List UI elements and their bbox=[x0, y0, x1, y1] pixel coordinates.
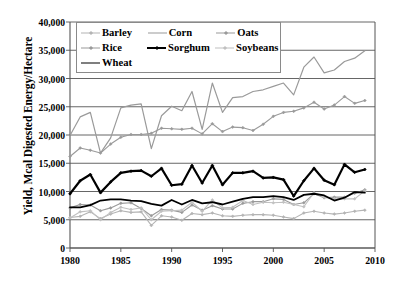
series-marker-barley bbox=[262, 213, 265, 216]
legend-label: Soybeans bbox=[236, 42, 278, 54]
legend-label: Barley bbox=[102, 27, 132, 39]
series-line-wheat bbox=[70, 192, 365, 207]
series-marker-barley bbox=[231, 215, 234, 218]
legend-label: Corn bbox=[169, 27, 193, 39]
series-marker-barley bbox=[252, 213, 255, 216]
series-marker-barley bbox=[170, 215, 173, 218]
legend-item-corn: Corn bbox=[148, 27, 217, 39]
series-marker-rice bbox=[140, 133, 143, 136]
legend-label: Sorghum bbox=[168, 42, 210, 54]
legend-swatch-corn-icon bbox=[148, 27, 167, 39]
series-marker-rice bbox=[292, 110, 295, 113]
legend-item-barley: Barley bbox=[81, 27, 148, 39]
series-marker-rice bbox=[363, 99, 366, 102]
series-line-barley bbox=[70, 210, 365, 225]
legend-row: RiceSorghumSoybeans bbox=[81, 40, 277, 55]
series-marker-barley bbox=[323, 211, 326, 214]
series-marker-rice bbox=[180, 128, 183, 131]
legend-item-rice: Rice bbox=[81, 42, 147, 54]
legend-row: Wheat bbox=[81, 55, 277, 70]
legend-item-soybeans: Soybeans bbox=[215, 42, 277, 54]
chart-legend: BarleyCornOatsRiceSorghumSoybeansWheat bbox=[76, 22, 281, 73]
series-marker-barley bbox=[201, 213, 204, 216]
chart-figure: Yield, Mcal Digested Energy/Hectare 05,0… bbox=[0, 0, 400, 289]
legend-swatch-rice-icon bbox=[81, 42, 100, 54]
legend-line-icon bbox=[81, 62, 100, 63]
legend-marker-icon bbox=[224, 30, 228, 34]
legend-swatch-barley-icon bbox=[81, 27, 100, 39]
legend-label: Wheat bbox=[102, 57, 132, 69]
series-marker-rice bbox=[282, 111, 285, 114]
legend-swatch-oats-icon bbox=[216, 27, 235, 39]
series-marker-barley bbox=[333, 213, 336, 216]
series-marker-barley bbox=[343, 211, 346, 214]
series-marker-rice bbox=[170, 127, 173, 130]
series-marker-barley bbox=[353, 210, 356, 213]
legend-swatch-soybeans-icon bbox=[215, 42, 234, 54]
series-marker-oats bbox=[272, 197, 275, 200]
series-marker-barley bbox=[221, 214, 224, 217]
series-marker-barley bbox=[313, 210, 316, 213]
legend-item-sorghum: Sorghum bbox=[147, 42, 215, 54]
series-marker-barley bbox=[363, 209, 366, 212]
legend-line-icon bbox=[148, 32, 167, 33]
legend-marker-icon bbox=[222, 45, 226, 49]
series-marker-soybeans bbox=[282, 201, 285, 204]
series-marker-barley bbox=[241, 214, 244, 217]
legend-marker-icon bbox=[88, 30, 92, 34]
legend-marker-icon bbox=[154, 45, 158, 49]
series-marker-soybeans bbox=[272, 201, 275, 204]
legend-item-oats: Oats bbox=[216, 27, 277, 39]
series-marker-rice bbox=[89, 149, 92, 152]
series-marker-rice bbox=[130, 133, 133, 136]
series-marker-barley bbox=[211, 211, 214, 214]
series-marker-rice bbox=[241, 126, 244, 129]
legend-item-wheat: Wheat bbox=[81, 57, 149, 69]
series-marker-soybeans bbox=[130, 208, 133, 211]
legend-swatch-wheat-icon bbox=[81, 57, 100, 69]
series-marker-barley bbox=[282, 215, 285, 218]
series-marker-oats bbox=[79, 203, 82, 206]
series-marker-soybeans bbox=[252, 203, 255, 206]
legend-row: BarleyCornOats bbox=[81, 25, 277, 40]
legend-marker-icon bbox=[88, 45, 92, 49]
series-marker-barley bbox=[272, 214, 275, 217]
legend-label: Oats bbox=[237, 27, 258, 39]
legend-swatch-sorghum-icon bbox=[147, 42, 166, 54]
legend-label: Rice bbox=[102, 42, 122, 54]
series-marker-barley bbox=[119, 209, 122, 212]
